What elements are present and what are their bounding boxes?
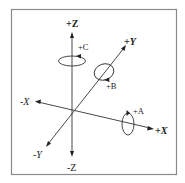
label-neg-y: -Y (33, 149, 43, 160)
label-neg-z: -Z (67, 162, 76, 173)
label-pos-x: +X (155, 125, 168, 136)
label-rotation-c: +C (78, 42, 89, 52)
coordinate-axes-diagram: +Z -Z +Y -Y -X +X +C +B +A (0, 0, 185, 183)
label-pos-z: +Z (66, 18, 79, 29)
label-rotation-a: +A (133, 106, 145, 116)
label-pos-y: +Y (124, 36, 137, 47)
label-neg-x: -X (20, 96, 30, 107)
label-rotation-b: +B (106, 81, 117, 91)
